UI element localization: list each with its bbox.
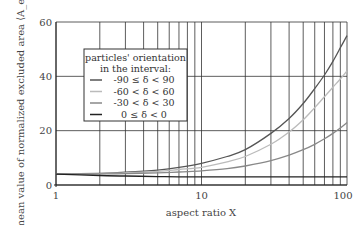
- legend-entry: -90 ≤ δ < 90: [113, 74, 174, 85]
- y-tick-label: 60: [39, 17, 52, 28]
- legend-title: particles' orientation: [85, 52, 186, 63]
- y-tick-label: 20: [39, 125, 52, 136]
- x-axis-label: aspect ratio X: [166, 207, 237, 218]
- x-tick-label: 10: [195, 190, 208, 201]
- x-tick-label: 1: [53, 190, 59, 201]
- legend-entry: -60 < δ < 60: [113, 86, 174, 97]
- svg-text:mean value of normalized exclu: mean value of normalized excluded area ⟨…: [15, 0, 27, 225]
- legend-subtitle: in the interval:: [100, 63, 171, 74]
- y-tick-label: 40: [39, 71, 52, 82]
- x-tick-label: 100: [333, 190, 352, 201]
- legend: particles' orientationin the interval:-9…: [84, 49, 187, 121]
- y-axis-label: mean value of normalized excluded area ⟨…: [15, 0, 27, 225]
- legend-entry: 0 ≤ δ < 0: [121, 109, 167, 120]
- legend-entry: -30 < δ < 30: [113, 97, 174, 108]
- y-tick-label: 0: [46, 180, 52, 191]
- line-chart: 0204060110100 aspect ratio X mean value …: [0, 0, 361, 225]
